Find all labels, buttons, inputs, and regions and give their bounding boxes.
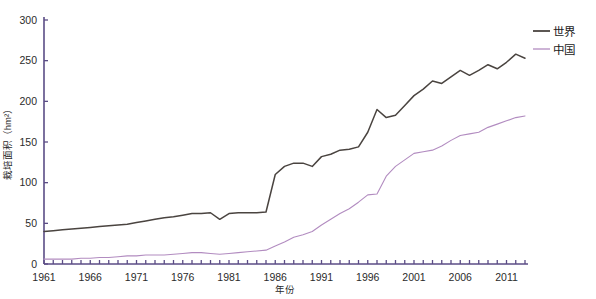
y-axis-tick-label: 300 [19, 14, 37, 26]
y-axis-tick-label: 150 [19, 136, 37, 148]
x-axis-title: 年份 [275, 284, 295, 295]
x-axis-tick-label: 1966 [79, 271, 103, 283]
x-axis-tick-label: 2006 [449, 271, 473, 283]
legend-label-world: 世界 [553, 26, 576, 38]
x-axis-tick-label: 2001 [402, 271, 426, 283]
y-axis-tick-label: 250 [19, 54, 37, 66]
legend-label-china: 中国 [553, 44, 575, 56]
x-axis-tick-label: 1976 [171, 271, 195, 283]
x-axis-tick-label: 1986 [264, 271, 288, 283]
x-axis-tick-label: 1971 [125, 271, 149, 283]
y-axis-title: 栽培面积（hm²） [2, 104, 13, 180]
y-axis-tick-label: 100 [19, 176, 37, 188]
chart-background [0, 0, 596, 299]
x-axis-tick-label: 1996 [356, 271, 380, 283]
y-axis-tick-label: 0 [31, 258, 37, 270]
x-axis-tick-label: 1991 [310, 271, 334, 283]
x-axis-tick-label: 2011 [495, 271, 518, 283]
line-chart: 050100150200250300 196119661971197619811… [0, 0, 596, 299]
x-axis-tick-label: 1961 [32, 271, 56, 283]
y-axis-tick-label: 200 [19, 95, 37, 107]
x-axis-tick-label: 1981 [217, 271, 241, 283]
y-axis-tick-label: 50 [25, 217, 37, 229]
chart-container: 050100150200250300 196119661971197619811… [0, 0, 596, 299]
